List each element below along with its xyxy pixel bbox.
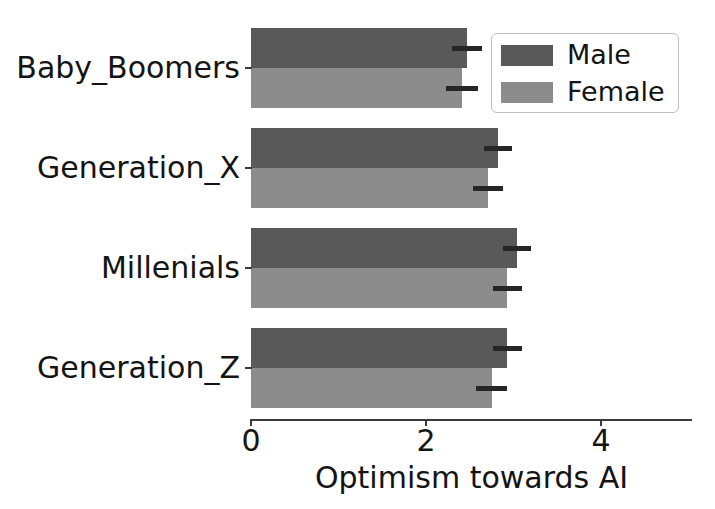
legend-item-female: Female xyxy=(501,77,665,107)
y-tick-mark xyxy=(245,167,252,169)
error-bar-millenials-female xyxy=(493,286,523,291)
bar-baby_boomers-male xyxy=(251,28,467,68)
legend-swatch-male-icon xyxy=(501,45,553,66)
y-tick-mark xyxy=(245,267,252,269)
error-bar-generation_x-female xyxy=(473,186,503,191)
bar-group xyxy=(251,228,692,308)
y-tick-label-generation_x: Generation_X xyxy=(37,151,240,185)
x-axis-line xyxy=(251,419,692,421)
error-bar-generation_z-female xyxy=(476,386,508,391)
bar-group xyxy=(251,328,692,408)
error-bar-baby_boomers-female xyxy=(446,86,478,91)
chart-legend: Male Female xyxy=(491,33,679,113)
x-tick-label: 0 xyxy=(241,424,260,458)
x-axis-label: Optimism towards AI xyxy=(251,460,692,496)
error-bar-millenials-male xyxy=(503,246,531,251)
y-tick-mark xyxy=(245,67,252,69)
bar-generation_z-female xyxy=(251,368,492,408)
bar-baby_boomers-female xyxy=(251,68,462,108)
legend-item-male: Male xyxy=(501,40,631,70)
legend-label-female: Female xyxy=(567,77,665,107)
x-tick-label: 2 xyxy=(416,424,435,458)
error-bar-generation_z-male xyxy=(493,346,523,351)
y-tick-label-baby_boomers: Baby_Boomers xyxy=(16,51,240,85)
chart-figure: 024 Optimism towards AI Baby_BoomersGene… xyxy=(0,0,715,509)
error-bar-baby_boomers-male xyxy=(452,46,482,51)
y-tick-label-generation_z: Generation_Z xyxy=(37,351,240,385)
bar-group xyxy=(251,128,692,208)
y-tick-mark xyxy=(245,367,252,369)
x-tick-label: 4 xyxy=(591,424,610,458)
legend-label-male: Male xyxy=(567,40,631,70)
bar-millenials-male xyxy=(251,228,517,268)
bar-generation_z-male xyxy=(251,328,507,368)
legend-swatch-female-icon xyxy=(501,82,553,103)
bar-generation_x-male xyxy=(251,128,498,168)
bar-generation_x-female xyxy=(251,168,488,208)
y-tick-label-millenials: Millenials xyxy=(101,251,240,285)
error-bar-generation_x-male xyxy=(484,146,512,151)
bar-millenials-female xyxy=(251,268,507,308)
